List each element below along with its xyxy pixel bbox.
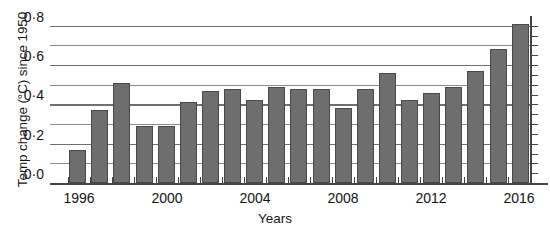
- bar-slot: [157, 16, 176, 183]
- y-tick-label: 0·0: [4, 167, 44, 181]
- x-tick: [134, 177, 135, 183]
- bar-slot: [245, 16, 264, 183]
- bar: [423, 93, 440, 183]
- x-tick: [244, 177, 245, 183]
- bar: [180, 102, 197, 183]
- bar-slot: [223, 16, 242, 183]
- x-tick: [508, 177, 509, 183]
- right-axis-tick: [532, 75, 538, 76]
- bar-slot: [134, 16, 153, 183]
- bar: [401, 100, 418, 183]
- bar-slot: [356, 16, 375, 183]
- bar-slot: [334, 16, 353, 183]
- x-tick: [354, 177, 355, 183]
- right-axis-tick: [532, 85, 538, 86]
- right-axis-tick: [532, 114, 538, 115]
- bar-slot: [179, 16, 198, 183]
- y-tick-label: 0·2: [4, 128, 44, 142]
- bar-chart: Temp change (°C) since 1950 0·00·20·40·6…: [0, 0, 550, 237]
- bar: [136, 126, 153, 183]
- x-tick: [90, 177, 91, 183]
- x-tick: [332, 177, 333, 183]
- bar-slot: [466, 16, 485, 183]
- y-tick-label: 0·8: [4, 10, 44, 24]
- x-tick: [200, 177, 201, 183]
- bar: [202, 91, 219, 183]
- x-tick: [398, 177, 399, 183]
- right-axis-tick: [532, 65, 538, 66]
- bar-slot: [201, 16, 220, 183]
- right-axis-tick: [532, 36, 538, 37]
- right-axis-tick: [532, 163, 538, 164]
- right-axis-tick: [532, 144, 538, 145]
- bar: [467, 71, 484, 183]
- x-axis-line: 199620002004200820122016: [50, 183, 548, 185]
- bar-slot: [400, 16, 419, 183]
- right-axis-tick: [532, 55, 538, 56]
- x-tick-label: 2016: [503, 190, 534, 206]
- bar: [335, 108, 352, 183]
- x-tick: [464, 177, 465, 183]
- bar-slot: [90, 16, 109, 183]
- x-axis-title: Years: [0, 211, 550, 226]
- right-axis-tick: [532, 154, 538, 155]
- y-tick-label: 0·4: [4, 88, 44, 102]
- bar-slot: [444, 16, 463, 183]
- bar: [357, 89, 374, 183]
- x-tick: [530, 177, 531, 183]
- bars-container: [68, 16, 530, 183]
- bar: [490, 49, 507, 183]
- right-axis-line: [530, 16, 532, 185]
- x-tick: [442, 177, 443, 183]
- bar-slot: [267, 16, 286, 183]
- x-tick: [310, 177, 311, 183]
- x-tick: [112, 177, 113, 183]
- bar: [113, 83, 130, 183]
- x-tick-label: 2000: [151, 190, 182, 206]
- x-tick-label: 2008: [327, 190, 358, 206]
- bar: [290, 89, 307, 183]
- bar-slot: [488, 16, 507, 183]
- bar: [512, 24, 529, 183]
- right-axis-tick: [532, 45, 538, 46]
- bar-slot: [311, 16, 330, 183]
- x-tick: [178, 177, 179, 183]
- bar: [69, 150, 86, 183]
- bar: [246, 100, 263, 183]
- x-tick: [266, 177, 267, 183]
- right-axis-tick: [532, 26, 538, 27]
- x-tick: [420, 177, 421, 183]
- x-tick: [222, 177, 223, 183]
- y-tick-label: 0·6: [4, 49, 44, 63]
- bar: [224, 89, 241, 183]
- x-tick-label: 2012: [415, 190, 446, 206]
- right-axis-tick: [532, 173, 538, 174]
- x-tick-label: 2004: [239, 190, 270, 206]
- x-tick: [288, 177, 289, 183]
- bar-slot: [378, 16, 397, 183]
- bar: [158, 126, 175, 183]
- bar: [268, 87, 285, 183]
- right-axis-tick: [532, 95, 538, 96]
- bar-slot: [68, 16, 87, 183]
- x-tick: [156, 177, 157, 183]
- right-axis-tick: [532, 124, 538, 125]
- bar: [379, 73, 396, 183]
- x-tick: [68, 177, 69, 183]
- bar-slot: [511, 16, 530, 183]
- bar-slot: [289, 16, 308, 183]
- x-tick: [486, 177, 487, 183]
- plot-area: 0·00·20·40·60·8: [68, 16, 530, 183]
- bar: [313, 89, 330, 183]
- bar-slot: [422, 16, 441, 183]
- x-tick: [376, 177, 377, 183]
- bar: [91, 110, 108, 183]
- bar: [445, 87, 462, 183]
- right-axis-tick: [532, 134, 538, 135]
- x-tick-label: 1996: [63, 190, 94, 206]
- bar-slot: [112, 16, 131, 183]
- right-axis-tick: [532, 104, 538, 105]
